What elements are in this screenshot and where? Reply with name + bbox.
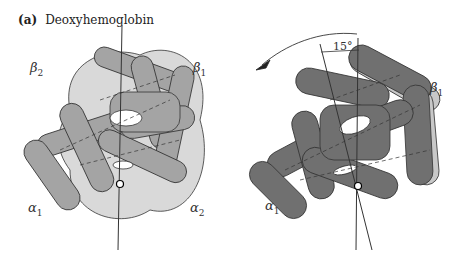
left-view — [19, 25, 204, 250]
rotation-arrow-icon — [256, 60, 270, 70]
label-beta1-right: β1 — [430, 80, 443, 98]
hemoglobin-diagram — [0, 0, 476, 257]
label-alpha2: α2 — [190, 200, 205, 218]
label-alpha1: α1 — [28, 200, 43, 218]
label-alpha1-right: α1 — [265, 198, 280, 216]
label-beta2: β2 — [30, 60, 43, 78]
label-beta1: β1 — [193, 60, 206, 78]
rotation-angle: 15° — [333, 40, 353, 53]
right-view — [244, 33, 444, 250]
